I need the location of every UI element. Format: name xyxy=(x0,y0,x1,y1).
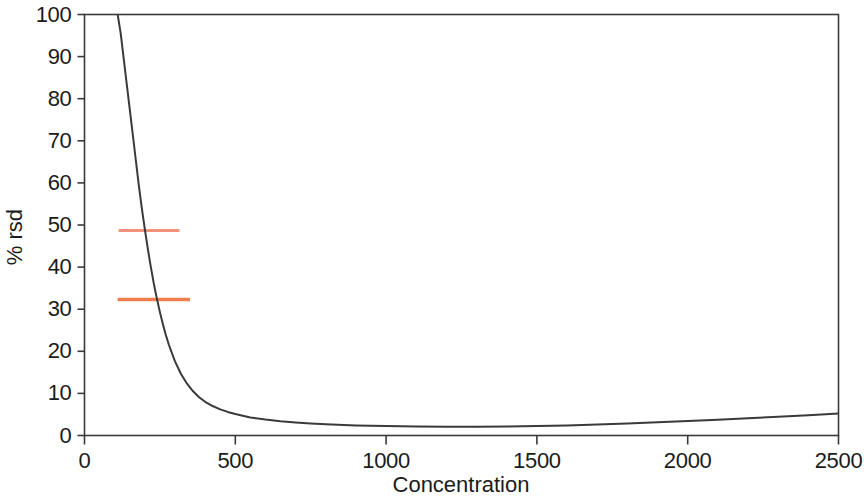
y-tick-label: 70 xyxy=(0,128,72,154)
y-tick-label: 100 xyxy=(0,2,72,28)
x-tick-label: 2500 xyxy=(815,448,863,474)
y-tick-label: 30 xyxy=(0,296,72,322)
y-axis-ticks xyxy=(78,15,85,436)
y-tick-label: 60 xyxy=(0,170,72,196)
chart-figure: 0102030405060708090100 05001000150020002… xyxy=(0,0,864,497)
x-tick-label: 500 xyxy=(217,448,253,474)
y-tick-label: 0 xyxy=(0,423,72,449)
x-axis-ticks xyxy=(85,436,839,445)
plot-frame xyxy=(85,15,839,436)
x-tick-label: 0 xyxy=(79,448,91,474)
x-tick-label: 1500 xyxy=(513,448,561,474)
x-tick-label: 1000 xyxy=(362,448,410,474)
x-axis-title: Concentration xyxy=(393,472,530,497)
x-tick-label: 2000 xyxy=(664,448,712,474)
y-tick-label: 10 xyxy=(0,380,72,406)
y-tick-label: 90 xyxy=(0,44,72,70)
y-tick-label: 80 xyxy=(0,86,72,112)
plot-canvas xyxy=(0,0,864,497)
y-axis-title: % rsd xyxy=(2,197,28,277)
y-tick-label: 20 xyxy=(0,338,72,364)
